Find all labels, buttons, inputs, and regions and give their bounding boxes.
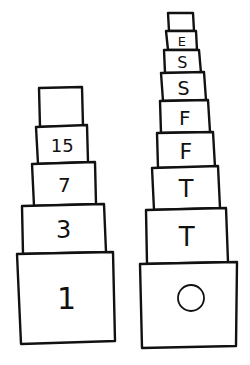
box-outline bbox=[39, 87, 83, 127]
box-label: S bbox=[177, 53, 187, 72]
stack-box bbox=[39, 87, 83, 127]
box-label: 3 bbox=[56, 216, 71, 244]
stack-box: T bbox=[146, 208, 228, 264]
box-label: T bbox=[178, 222, 195, 252]
stack-box bbox=[140, 262, 237, 348]
box-label: S bbox=[177, 77, 189, 99]
box-label: 7 bbox=[58, 173, 71, 197]
box-label: F bbox=[179, 106, 191, 130]
stack-box: 1 bbox=[17, 252, 115, 344]
stack-box: S bbox=[164, 50, 201, 73]
stack-box: T bbox=[152, 166, 220, 210]
stack-box: S bbox=[161, 72, 206, 101]
stack-box: 3 bbox=[22, 204, 106, 254]
stack-box: 15 bbox=[36, 125, 88, 164]
stack-box bbox=[168, 13, 194, 31]
box-label: E bbox=[178, 34, 186, 49]
stacked-boxes-diagram: 15731ESSFFTT bbox=[0, 0, 250, 365]
box-outline bbox=[140, 262, 237, 348]
box-label: 1 bbox=[57, 281, 76, 316]
stack-box: F bbox=[157, 132, 215, 168]
box-outline bbox=[168, 13, 194, 31]
stack-box: F bbox=[160, 100, 210, 133]
box-label: F bbox=[179, 139, 192, 164]
box-label: 15 bbox=[51, 135, 74, 156]
stack-box: 7 bbox=[32, 162, 96, 206]
stack-box: E bbox=[166, 31, 197, 50]
box-label: T bbox=[178, 175, 194, 203]
